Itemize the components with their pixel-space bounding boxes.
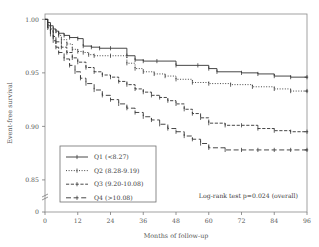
y-tick-label: 0.85 bbox=[25, 176, 39, 183]
legend-label-2: Q2 (8.28-9.19) bbox=[94, 167, 139, 174]
y-axis-title: Event-free survival bbox=[6, 82, 14, 144]
x-tick-label: 96 bbox=[303, 217, 311, 224]
x-axis-title: Months of follow-up bbox=[144, 232, 209, 240]
x-tick-label: 72 bbox=[238, 217, 246, 224]
logrank-annotation: Log-rank test p=0.024 (overall) bbox=[199, 192, 298, 200]
y-tick-label: 0 bbox=[35, 208, 39, 215]
x-tick-label: 0 bbox=[43, 217, 47, 224]
x-tick-label: 60 bbox=[205, 217, 213, 224]
x-tick-label: 24 bbox=[107, 217, 115, 224]
survival-plot: 00.850.900.951.00 01224364860728496 Even… bbox=[0, 0, 319, 247]
kaplan-meier-figure: 00.850.900.951.00 01224364860728496 Even… bbox=[0, 0, 319, 247]
y-tick-label: 1.00 bbox=[25, 16, 39, 23]
legend-label-1: Q1 (<8.27) bbox=[94, 153, 129, 160]
x-tick-label: 12 bbox=[74, 217, 82, 224]
y-tick-label: 0.90 bbox=[25, 123, 39, 130]
legend-label-4: Q4 (>10.08) bbox=[94, 194, 133, 201]
y-tick-label: 0.95 bbox=[25, 69, 39, 76]
x-tick-label: 36 bbox=[139, 217, 147, 224]
x-tick-label: 48 bbox=[172, 217, 180, 224]
legend-label-3: Q3 (9.20-10.08) bbox=[94, 180, 143, 187]
x-tick-label: 84 bbox=[270, 217, 278, 224]
